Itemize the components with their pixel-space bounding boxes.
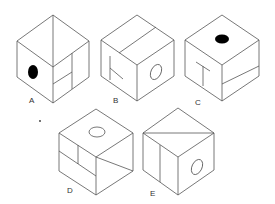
cube-a: A <box>17 15 89 105</box>
option-label-d: D <box>67 186 73 195</box>
cube-b: B <box>101 15 174 105</box>
cube-puzzle-figure: A B C D <box>0 0 275 204</box>
hollow-ellipse-icon <box>89 127 105 137</box>
hollow-ellipse-icon <box>148 63 164 82</box>
cube-d: D <box>59 109 133 195</box>
filled-ellipse-icon <box>28 65 38 79</box>
option-label-e: E <box>150 189 155 198</box>
cube-c: C <box>185 15 259 107</box>
option-label-b: B <box>113 96 118 105</box>
cube-e: E <box>143 108 214 198</box>
stray-dot <box>39 120 41 122</box>
hollow-ellipse-icon <box>189 158 205 177</box>
filled-ellipse-icon <box>215 35 229 44</box>
option-label-c: C <box>195 98 201 107</box>
option-label-a: A <box>29 96 35 105</box>
